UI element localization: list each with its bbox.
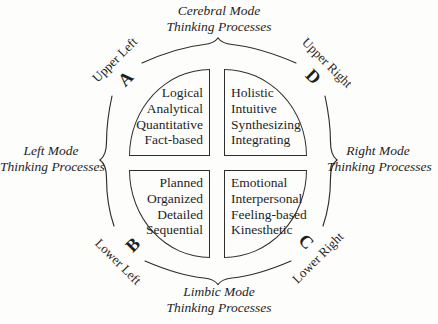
trait-line: Analytical [136,101,203,117]
trait-line: Kinesthetic [231,222,307,238]
trait-line: Interpersonal [231,191,307,207]
limbic-mode-label: Limbic Mode Thinking Processes [0,284,438,315]
mode-label-line: Limbic Mode [0,284,438,300]
trait-line: Integrating [231,132,301,148]
mode-label-line: Cerebral Mode [0,3,438,19]
trait-line: Emotional [231,175,307,191]
trait-line: Sequential [146,222,203,238]
bottom-right-arc [218,261,291,285]
mode-label-line: Right Mode [327,143,429,159]
cerebral-mode-label: Cerebral Mode Thinking Processes [0,3,438,34]
trait-line: Fact-based [136,132,203,148]
right-mode-label: Right Mode Thinking Processes [327,143,429,174]
quadrant-c-traits: Emotional Interpersonal Feeling-based Ki… [231,175,307,238]
quadrant-b-traits: Planned Organized Detailed Sequential [146,175,203,238]
trait-line: Intuitive [231,101,301,117]
mode-label-line: Thinking Processes [0,300,438,316]
bottom-left-arc [145,261,218,285]
trait-line: Feeling-based [231,207,307,223]
trait-line: Holistic [231,85,301,101]
trait-line: Detailed [146,207,203,223]
trait-line: Quantitative [136,117,203,133]
top-right-arc [218,38,296,63]
trait-line: Planned [146,175,203,191]
top-left-arc [142,38,218,63]
left-mode-label: Left Mode Thinking Processes [0,143,102,174]
mode-label-line: Left Mode [0,143,102,159]
mode-label-line: Thinking Processes [0,19,438,35]
mode-label-line: Thinking Processes [327,159,429,175]
trait-line: Logical [136,85,203,101]
trait-line: Organized [146,191,203,207]
mode-label-line: Thinking Processes [0,159,102,175]
whole-brain-diagram: Logical Analytical Quantitative Fact-bas… [0,0,438,324]
quadrant-d-traits: Holistic Intuitive Synthesizing Integrat… [231,85,301,148]
trait-line: Synthesizing [231,117,301,133]
quadrant-a-traits: Logical Analytical Quantitative Fact-bas… [136,85,203,148]
